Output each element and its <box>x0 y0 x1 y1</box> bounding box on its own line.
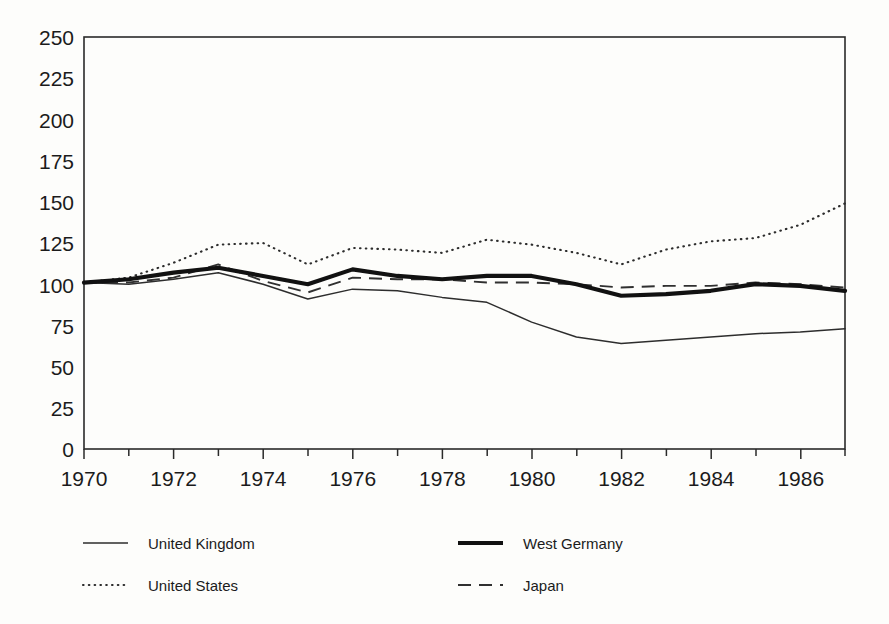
x-tick-label: 1984 <box>688 467 735 490</box>
x-tick-label: 1970 <box>61 467 108 490</box>
y-tick-label: 225 <box>39 67 74 90</box>
y-tick-label: 125 <box>39 232 74 255</box>
legend-item-united-kingdom[interactable]: United Kingdom <box>83 535 255 552</box>
line-chart: 250 225 200 175 150 125 100 75 50 25 0 <box>0 0 889 624</box>
x-tick-label: 1980 <box>509 467 556 490</box>
y-tick-label: 175 <box>39 150 74 173</box>
legend-label: United Kingdom <box>148 535 255 552</box>
legend-item-japan[interactable]: Japan <box>458 577 564 594</box>
chart-figure: 250 225 200 175 150 125 100 75 50 25 0 <box>0 0 889 624</box>
x-tick-label: 1986 <box>777 467 824 490</box>
x-axis-ticks <box>84 449 845 459</box>
legend-item-united-states[interactable]: United States <box>83 577 238 594</box>
legend-label: West Germany <box>523 535 623 552</box>
plot-frame <box>84 37 845 449</box>
x-tick-label: 1974 <box>240 467 287 490</box>
y-tick-label: 0 <box>62 438 74 461</box>
series-line-united-kingdom <box>84 273 845 344</box>
legend-label: United States <box>148 577 238 594</box>
y-axis-tick-labels: 250 225 200 175 150 125 100 75 50 25 0 <box>39 26 74 461</box>
x-axis-tick-labels: 1970 1972 1974 1976 1978 1980 1982 1984 … <box>61 467 825 490</box>
data-series-group <box>84 203 845 343</box>
y-tick-label: 250 <box>39 26 74 49</box>
legend-item-west-germany[interactable]: West Germany <box>458 535 623 552</box>
chart-legend: United Kingdom West Germany United State… <box>83 535 623 594</box>
x-tick-label: 1972 <box>150 467 197 490</box>
y-tick-label: 75 <box>51 315 74 338</box>
x-tick-label: 1978 <box>419 467 466 490</box>
y-tick-label: 25 <box>51 397 74 420</box>
y-tick-label: 50 <box>51 356 74 379</box>
y-tick-label: 200 <box>39 109 74 132</box>
y-tick-label: 100 <box>39 274 74 297</box>
y-tick-label: 150 <box>39 191 74 214</box>
x-tick-label: 1976 <box>329 467 376 490</box>
legend-label: Japan <box>523 577 564 594</box>
x-tick-label: 1982 <box>598 467 645 490</box>
